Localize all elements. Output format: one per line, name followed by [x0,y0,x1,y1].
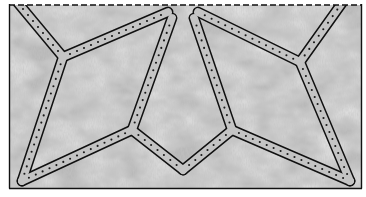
stitch-dot [286,153,288,155]
stitch-dot [139,23,141,25]
stitch-dot [37,26,39,28]
stitch-dot [43,114,45,116]
stitch-dot [342,177,344,179]
stitch-dot [218,92,220,94]
stitch-dot [245,34,247,36]
stitch-dot [50,92,52,94]
stitch-dot [160,47,162,49]
stitch-dot [169,159,171,161]
stitch-dot [150,77,152,79]
stitch-dot [132,26,134,28]
stitch-dot [328,131,330,133]
stitch-dot [321,168,323,170]
stitch-dot [200,154,202,156]
stitch-dot [201,39,203,41]
stitch-dot [142,99,144,101]
stitch-dot [35,136,37,138]
stitch-dot [335,174,337,176]
stitch-dot [302,68,304,70]
stitch-dot [62,161,64,163]
stitch-dot [213,77,215,79]
stitch-dot [334,145,336,147]
stitch-dot [32,20,34,22]
stitch-dot [158,54,160,56]
stitch-dot [69,53,71,55]
stitch-dot [318,35,320,37]
stitch-dot [31,151,33,153]
stitch-dot [146,20,148,22]
stitch-dot [69,158,71,160]
stitch-dot [311,89,313,91]
stitch-dot [176,164,178,166]
stitch-dot [57,71,59,73]
stitch-dot [211,69,213,71]
stitch-dot [150,144,152,146]
stitch-dot [203,47,205,49]
stitch-dot [238,132,240,134]
stitch-dot [331,138,333,140]
stitch-dot [217,21,219,23]
stitch-dot [226,114,228,116]
stitch-dot [83,47,85,49]
stitch-dot [136,114,138,116]
stitch-dot [221,99,223,101]
stitch-dot [144,92,146,94]
stitch-dot [144,139,146,141]
stitch-dot [125,29,127,31]
stitch-dot [280,150,282,152]
stitch-dot [156,149,158,151]
stitch-dot [223,107,225,109]
stitch-dot [124,132,126,134]
stitch-dot [57,50,59,52]
stitch-dot [305,75,307,77]
stitch-dot [90,44,92,46]
stitch-dot [322,28,324,30]
stitch-dot [166,32,168,34]
stitch-dot [238,31,240,33]
stitch-dot [231,28,233,30]
stitch-dot [219,139,221,141]
stitch-dot [152,69,154,71]
stitch-dot [47,100,49,102]
stitch-dot [314,165,316,167]
stitch-dot [346,173,348,175]
stitch-dot [194,159,196,161]
stitch-dot [33,143,35,145]
stitch-dot [45,107,47,109]
stitch-dot [328,171,330,173]
stitch-dot [308,48,310,50]
stitch-dot [47,38,49,40]
stitch-dot [111,35,113,37]
stitch-dot [322,117,324,119]
stitch-dot [117,135,119,137]
stitched-panel-illustration [0,0,366,197]
stitch-dot [266,144,268,146]
stitch-dot [137,134,139,136]
stitch-dot [83,151,85,153]
stitch-dot [118,32,120,34]
stitch-dot [60,63,62,65]
stitch-dot [228,121,230,123]
stitch-dot [216,84,218,86]
stitch-dot [265,44,267,46]
stitch-dot [258,41,260,43]
stitch-dot [52,44,54,46]
stitch-dot [147,84,149,86]
stitch-dot [52,85,54,87]
stitch-dot [48,167,50,169]
stitch-dot [55,78,57,80]
stitch-dot [208,62,210,64]
stitch-dot [336,9,338,11]
stitch-dot [340,159,342,161]
stitch-dot [313,41,315,43]
stitch-dot [259,141,261,143]
stitch-dot [168,24,170,26]
stitch-dot [245,135,247,137]
stitch-dot [155,62,157,64]
stitch-dot [110,139,112,141]
stitch-dot [327,22,329,24]
stitch-dot [90,148,92,150]
stitch-dot [332,15,334,17]
stitch-dot [55,164,57,166]
stitch-dot [198,32,200,34]
